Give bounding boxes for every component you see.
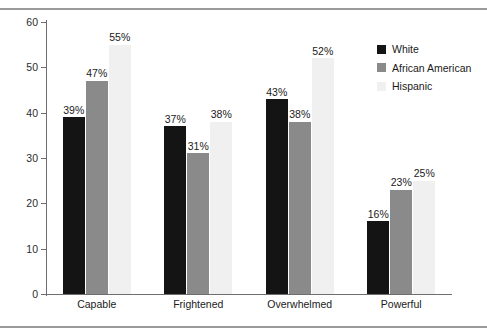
legend-item[interactable]: White — [377, 44, 471, 55]
top-divider — [0, 8, 487, 10]
bar-value-label: 37% — [165, 114, 186, 125]
x-axis-category-label: Powerful — [381, 299, 422, 310]
legend-item[interactable]: Hispanic — [377, 81, 471, 92]
y-axis-tick-label: 40 — [10, 108, 38, 119]
bar-fill — [63, 117, 85, 294]
chart-legend: WhiteAfrican AmericanHispanic — [377, 44, 471, 100]
bar-value-label: 31% — [188, 141, 209, 152]
bar-value-label: 39% — [63, 105, 84, 116]
bar-fill — [164, 126, 186, 294]
bar[interactable]: 38% — [289, 122, 311, 294]
bar[interactable]: 47% — [86, 81, 108, 294]
legend-item-label: White — [392, 44, 419, 55]
y-axis-labels: 6050403020100 — [0, 0, 38, 333]
bar-value-label: 47% — [86, 68, 107, 79]
bar-value-label: 52% — [312, 46, 333, 57]
y-axis-tick-label: 10 — [10, 244, 38, 255]
bar-fill — [109, 45, 131, 294]
y-axis-tick-label: 30 — [10, 153, 38, 164]
bar[interactable]: 39% — [63, 117, 85, 294]
x-axis-category-label: Frightened — [173, 299, 223, 310]
bar[interactable]: 55% — [109, 45, 131, 294]
bar-fill — [266, 99, 288, 294]
x-axis-labels: CapableFrightenedOverwhelmedPowerful — [46, 299, 452, 317]
legend-item-label: African American — [392, 63, 471, 74]
bar[interactable]: 52% — [312, 58, 334, 294]
bar-group: 37%31%38% — [164, 22, 232, 294]
bar-value-label: 55% — [109, 32, 130, 43]
bar[interactable]: 25% — [413, 181, 435, 294]
bar-value-label: 16% — [368, 209, 389, 220]
y-axis-tick-label: 0 — [10, 289, 38, 300]
bottom-divider — [0, 326, 487, 328]
legend-item-label: Hispanic — [392, 81, 432, 92]
bar-group: 43%38%52% — [266, 22, 334, 294]
y-axis-tick-label: 50 — [10, 62, 38, 73]
x-axis-category-label: Capable — [77, 299, 116, 310]
bar-value-label: 25% — [414, 168, 435, 179]
bar[interactable]: 37% — [164, 126, 186, 294]
bar[interactable]: 31% — [187, 153, 209, 294]
bar-fill — [367, 221, 389, 294]
x-axis-category-label: Overwhelmed — [267, 299, 332, 310]
bar-group: 39%47%55% — [63, 22, 131, 294]
bar-value-label: 38% — [289, 109, 310, 120]
bar-value-label: 38% — [211, 109, 232, 120]
bar[interactable]: 16% — [367, 221, 389, 294]
bar-fill — [390, 190, 412, 294]
y-axis-tick-label: 60 — [10, 17, 38, 28]
x-axis-line — [46, 294, 452, 295]
legend-item[interactable]: African American — [377, 63, 471, 74]
bar-fill — [413, 181, 435, 294]
legend-swatch-icon — [377, 45, 386, 54]
legend-swatch-icon — [377, 63, 386, 72]
bar-fill — [289, 122, 311, 294]
chart-figure: 6050403020100 39%47%55%37%31%38%43%38%52… — [0, 0, 487, 333]
bar[interactable]: 23% — [390, 190, 412, 294]
bar-fill — [312, 58, 334, 294]
bar-fill — [86, 81, 108, 294]
bar-value-label: 23% — [391, 177, 412, 188]
bar[interactable]: 43% — [266, 99, 288, 294]
bar-value-label: 43% — [266, 87, 287, 98]
y-axis-tick-label: 20 — [10, 198, 38, 209]
legend-swatch-icon — [377, 82, 386, 91]
bar-fill — [187, 153, 209, 294]
bar-fill — [210, 122, 232, 294]
bar[interactable]: 38% — [210, 122, 232, 294]
